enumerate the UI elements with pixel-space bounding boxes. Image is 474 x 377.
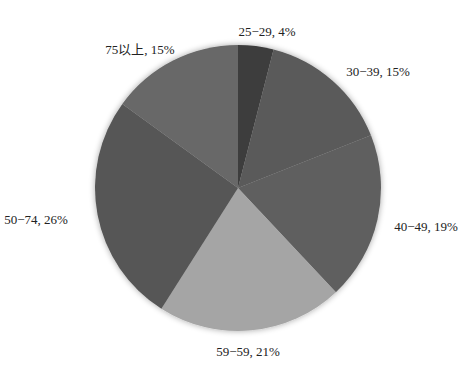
slice-data-label: 50−74, 26% bbox=[4, 212, 68, 227]
slice-data-label: 40−49, 19% bbox=[394, 219, 458, 234]
slice-data-label: 75以上, 15% bbox=[105, 42, 175, 57]
slice-data-label: 25−29, 4% bbox=[238, 24, 295, 39]
slice-data-label: 30−39, 15% bbox=[346, 64, 410, 79]
pie-chart: 25−29, 4%30−39, 15%40−49, 19%59−59, 21%5… bbox=[0, 0, 474, 377]
slice-data-label: 59−59, 21% bbox=[216, 344, 280, 359]
pie-chart-svg: 25−29, 4%30−39, 15%40−49, 19%59−59, 21%5… bbox=[0, 0, 474, 377]
pie-slices bbox=[95, 45, 381, 331]
